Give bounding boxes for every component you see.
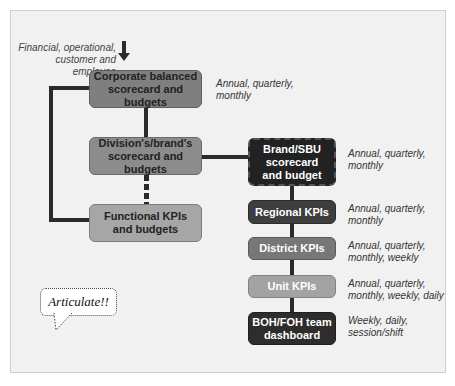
arrow-head-icon — [118, 53, 130, 61]
connector-division-brand — [202, 155, 248, 159]
connector-unit-boh — [290, 298, 294, 312]
frequency-unit: Annual, quarterly, monthly, weekly, dail… — [348, 278, 444, 302]
brand-sbu-box: Brand/SBU scorecard and budget — [248, 138, 336, 186]
connector-left-top — [49, 86, 89, 90]
connector-brand-regional — [290, 186, 294, 200]
speech-bubble-tail-icon — [52, 313, 76, 333]
frequency-corporate: Annual, quarterly, monthly — [216, 78, 294, 102]
district-kpis-box: District KPIs — [248, 237, 336, 260]
regional-kpis-box: Regional KPIs — [248, 200, 336, 224]
boh-foh-dashboard-box: BOH/FOH team dashboard — [248, 312, 336, 345]
division-scorecard-box: Division's/brand's scorecard and budgets — [89, 137, 202, 175]
unit-kpis-box: Unit KPIs — [248, 275, 336, 298]
frequency-boh: Weekly, daily, session/shift — [348, 315, 408, 339]
functional-kpis-box: Functional KPIs and budgets — [89, 204, 202, 242]
connector-district-unit — [290, 260, 294, 275]
connector-regional-district — [290, 224, 294, 237]
connector-division-functional — [144, 175, 149, 204]
connector-left-vertical — [49, 86, 53, 222]
frequency-district: Annual, quarterly, monthly, weekly — [348, 240, 426, 264]
corporate-scorecard-box: Corporate balanced scorecard and budgets — [89, 70, 202, 108]
frequency-regional: Annual, quarterly, monthly — [348, 203, 426, 227]
frequency-brand: Annual, quarterly, monthly — [348, 148, 426, 172]
connector-left-bottom — [49, 218, 89, 222]
connector-corp-division — [144, 108, 148, 137]
speech-bubble: Articulate!! — [40, 288, 117, 316]
